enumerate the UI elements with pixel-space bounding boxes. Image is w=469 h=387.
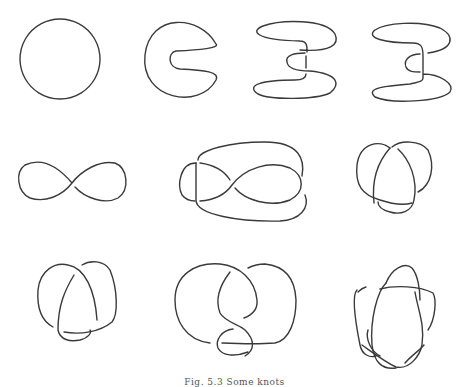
figure-caption: Fig. 5.3 Some knots	[0, 377, 469, 387]
knot-unknot-twisted-a	[254, 22, 337, 99]
knot-pentagram	[354, 266, 435, 369]
knot-trefoil-a	[357, 142, 432, 213]
knot-trefoil-b	[38, 262, 116, 341]
knot-figure-eight-knot	[175, 264, 296, 356]
knot-unknot-circle	[20, 19, 100, 99]
knot-fish	[180, 142, 306, 221]
knot-unknot-twisted-b	[372, 23, 451, 101]
knot-figure-eight-curve	[19, 162, 126, 201]
knot-unknot-c-shape	[145, 22, 217, 97]
